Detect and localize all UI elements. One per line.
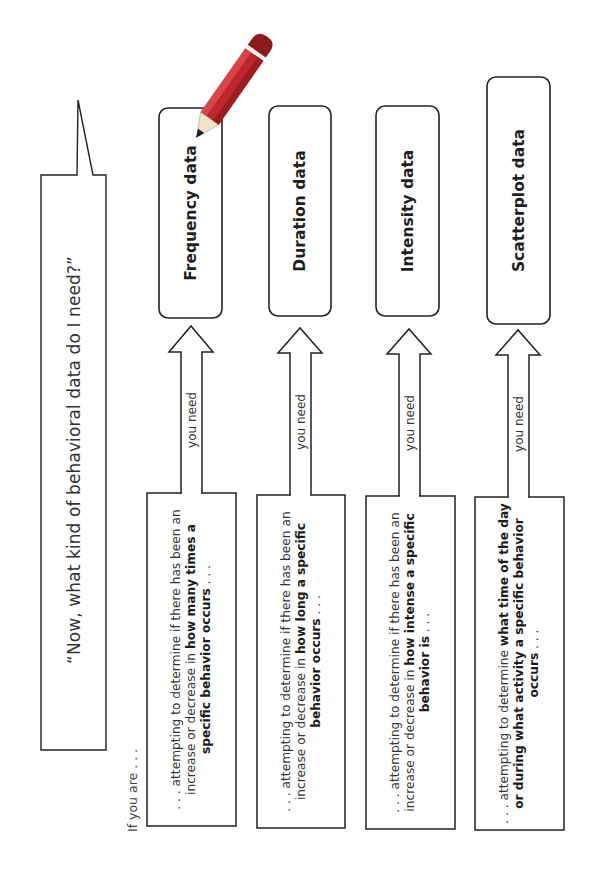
arrow-label-frequency: you need xyxy=(181,350,202,490)
intro-text: If you are . . . xyxy=(122,742,142,832)
condition-duration: . . . attempting to determine if there h… xyxy=(257,495,345,828)
condition-intensity: . . . attempting to determine if there h… xyxy=(366,496,455,829)
behavioral-data-flowchart: “Now, what kind of behavioral data do I … xyxy=(0,0,598,878)
label-intensity: Intensity data xyxy=(376,106,439,316)
condition-frequency: . . . attempting to determine if there h… xyxy=(147,493,236,826)
arrow-label-scatterplot: you need xyxy=(508,354,529,494)
label-scatterplot: Scatterplot data xyxy=(487,77,550,324)
arrow-label-duration: you need xyxy=(290,352,311,492)
condition-scatterplot: . . . attempting to determine what time … xyxy=(475,497,564,830)
label-duration: Duration data xyxy=(269,106,331,316)
arrow-label-intensity: you need xyxy=(399,353,420,493)
label-frequency: Frequency data xyxy=(159,108,222,318)
bubble-quote: “Now, what kind of behavioral data do I … xyxy=(41,180,106,740)
